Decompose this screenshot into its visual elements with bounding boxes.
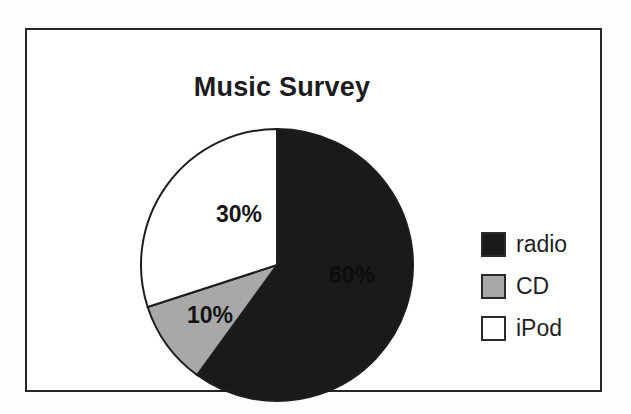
legend-label-cd: CD: [516, 273, 549, 300]
legend-item-ipod[interactable]: iPod: [481, 307, 567, 349]
chart-legend: radio CD iPod: [481, 223, 567, 349]
legend-swatch-radio: [481, 232, 506, 257]
pie-data-label-radio: 60%: [329, 262, 375, 289]
legend-item-cd[interactable]: CD: [481, 265, 567, 307]
chart-screenshot: Music Survey 60% 10% 30% radio CD: [0, 0, 631, 414]
legend-swatch-cd: [481, 274, 506, 299]
legend-swatch-ipod: [481, 316, 506, 341]
legend-label-radio: radio: [516, 231, 567, 258]
legend-item-radio[interactable]: radio: [481, 223, 567, 265]
legend-label-ipod: iPod: [516, 315, 562, 342]
pie-data-label-cd: 10%: [187, 302, 233, 329]
pie-data-label-ipod: 30%: [216, 201, 262, 228]
chart-frame: Music Survey 60% 10% 30% radio CD: [25, 28, 602, 392]
chart-title: Music Survey: [87, 72, 477, 103]
